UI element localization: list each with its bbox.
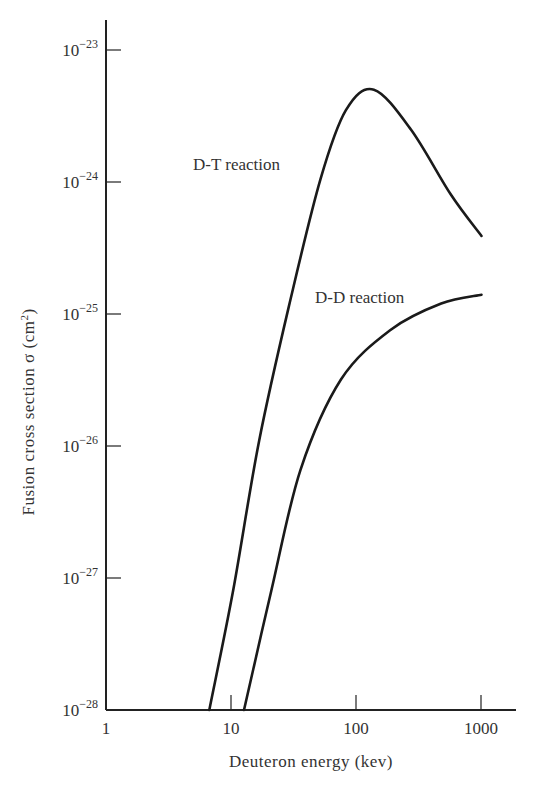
y-axis-title: Fusion cross section σ (cm2) xyxy=(18,308,38,515)
fusion-cross-section-chart: 1101001000 10−2310−2410−2510−2610−2710−2… xyxy=(0,0,536,787)
x-tick-label: 10 xyxy=(223,719,240,738)
y-tick-label: 10−28 xyxy=(62,697,98,720)
y-tick-label: 10−25 xyxy=(62,301,98,324)
x-tick-label: 100 xyxy=(343,719,369,738)
x-tick-label: 1000 xyxy=(464,719,498,738)
dd-reaction-label: D-D reaction xyxy=(315,288,405,307)
dt-reaction-curve xyxy=(209,89,481,710)
x-tick-label: 1 xyxy=(102,719,111,738)
dd-reaction-curve xyxy=(244,295,482,710)
x-axis-ticks: 1101001000 xyxy=(102,695,498,738)
y-tick-label: 10−27 xyxy=(62,565,98,588)
y-axis-ticks: 10−2310−2410−2510−2610−2710−28 xyxy=(62,37,121,720)
x-axis-title: Deuteron energy (kev) xyxy=(229,752,393,771)
y-tick-label: 10−24 xyxy=(62,169,98,192)
y-tick-label: 10−23 xyxy=(62,37,98,60)
axes xyxy=(106,20,516,710)
curves xyxy=(209,89,481,710)
dt-reaction-label: D-T reaction xyxy=(193,155,281,174)
y-tick-label: 10−26 xyxy=(62,433,98,456)
